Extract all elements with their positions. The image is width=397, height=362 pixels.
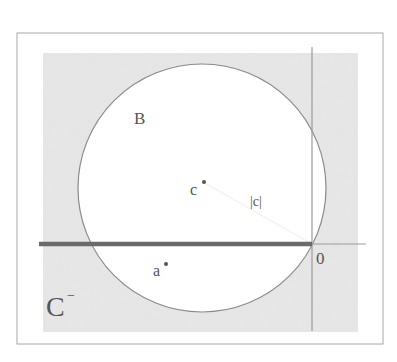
label-origin: 0 bbox=[316, 249, 325, 268]
point-c-dot bbox=[202, 180, 206, 184]
label-region: C bbox=[46, 291, 65, 322]
label-c: c bbox=[190, 181, 197, 198]
disk-b bbox=[78, 64, 326, 312]
label-region-superscript: − bbox=[67, 288, 75, 303]
complex-plane-diagram: B c |c| a 0 C − bbox=[0, 0, 397, 362]
label-radius: |c| bbox=[250, 194, 262, 209]
point-a-dot bbox=[164, 262, 168, 266]
label-a: a bbox=[153, 262, 160, 279]
label-b: B bbox=[134, 109, 145, 128]
